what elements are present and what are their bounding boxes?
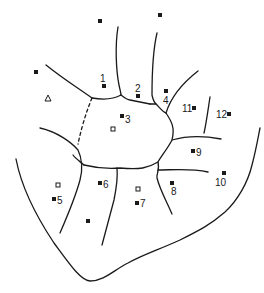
region-labels: 1 2 3 4 5 6 7 8 9 10 11 12	[57, 73, 228, 209]
marker-region-2	[136, 94, 140, 98]
open-square-icon	[56, 183, 60, 187]
label-region-3: 3	[125, 114, 131, 125]
region-diagram: 1 2 3 4 5 6 7 8 9 10 11 12	[0, 0, 264, 293]
marker-unlabeled	[34, 70, 38, 74]
marker-region-11	[192, 106, 196, 110]
marker-region-7	[135, 201, 139, 205]
label-region-7: 7	[140, 198, 146, 209]
label-region-1: 1	[100, 73, 106, 84]
label-region-6: 6	[103, 179, 109, 190]
label-region-8: 8	[171, 186, 177, 197]
label-region-4: 4	[163, 95, 169, 106]
marker-region-4	[164, 89, 168, 93]
label-region-9: 9	[196, 147, 202, 158]
region-markers	[34, 13, 231, 223]
open-square-icon	[136, 187, 140, 191]
marker-region-1	[102, 84, 106, 88]
label-region-5: 5	[57, 195, 63, 206]
marker-region-6	[98, 181, 102, 185]
marker-unlabeled	[86, 219, 90, 223]
open-square-icon	[111, 127, 115, 131]
label-region-11: 11	[182, 103, 193, 114]
marker-region-12	[227, 112, 231, 116]
marker-region-5	[52, 197, 56, 201]
label-region-12: 12	[216, 109, 228, 120]
marker-region-8	[170, 181, 174, 185]
marker-region-10	[222, 171, 226, 175]
label-region-2: 2	[135, 83, 141, 94]
marker-region-3	[120, 114, 124, 118]
marker-unlabeled	[98, 19, 102, 23]
label-region-10: 10	[215, 177, 227, 188]
open-triangle-icon	[45, 95, 51, 101]
marker-unlabeled	[158, 13, 162, 17]
marker-region-9	[191, 149, 195, 153]
boundary-lines	[16, 27, 260, 281]
